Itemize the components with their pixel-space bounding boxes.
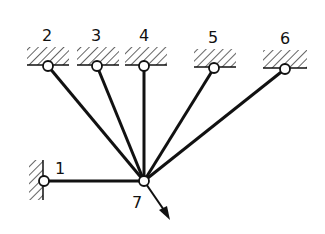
pin-1 (39, 176, 49, 186)
node-label-1: 1 (55, 159, 65, 178)
node-label-7: 7 (132, 193, 142, 212)
node-label-5: 5 (208, 28, 218, 47)
truss-diagram: 2 3 4 5 6 1 7 (0, 0, 325, 234)
pin-5 (209, 63, 219, 73)
node-label-6: 6 (280, 29, 290, 48)
node-label-4: 4 (139, 26, 149, 45)
pin-4 (139, 61, 149, 71)
bars (44, 66, 285, 181)
bar-3-7 (97, 66, 144, 181)
pin-6 (280, 64, 290, 74)
pin-7 (139, 176, 149, 186)
pins (39, 61, 290, 186)
node-label-3: 3 (91, 26, 101, 45)
node-label-2: 2 (42, 26, 52, 45)
bar-6-7 (144, 69, 285, 181)
load-arrow-icon (144, 181, 170, 220)
pin-3 (92, 61, 102, 71)
pin-2 (43, 61, 53, 71)
bar-5-7 (144, 68, 214, 181)
